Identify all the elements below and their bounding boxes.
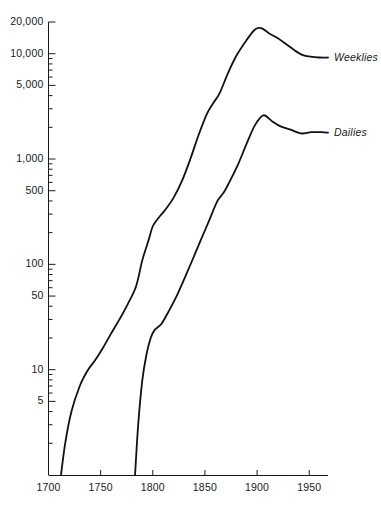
series-curves-group: [61, 28, 328, 475]
axis-ticks-group: [49, 22, 310, 475]
series-label-weeklies: Weeklies: [334, 51, 378, 63]
x-tick-label: 1850: [181, 481, 229, 493]
y-tick-label: 10: [31, 363, 43, 375]
series-label-dailies: Dailies: [334, 126, 367, 138]
x-tick-label: 1900: [233, 481, 281, 493]
y-tick-label: 1,000: [16, 152, 43, 164]
series-line-dailies: [135, 115, 328, 475]
y-tick-label: 20,000: [10, 15, 43, 27]
chart-figure: 510501005001,0005,00010,00020,0001700175…: [0, 0, 381, 511]
y-tick-label: 10,000: [10, 47, 43, 59]
x-tick-label: 1800: [129, 481, 177, 493]
y-tick-label: 5: [37, 394, 43, 406]
series-line-weeklies: [61, 28, 328, 475]
y-tick-label: 5,000: [16, 78, 43, 90]
x-tick-label: 1950: [285, 481, 333, 493]
chart-plot-svg: [0, 0, 381, 511]
y-tick-label: 500: [25, 184, 43, 196]
y-tick-label: 50: [31, 289, 43, 301]
x-tick-label: 1700: [25, 481, 73, 493]
x-tick-label: 1750: [77, 481, 125, 493]
y-tick-label: 100: [25, 257, 43, 269]
